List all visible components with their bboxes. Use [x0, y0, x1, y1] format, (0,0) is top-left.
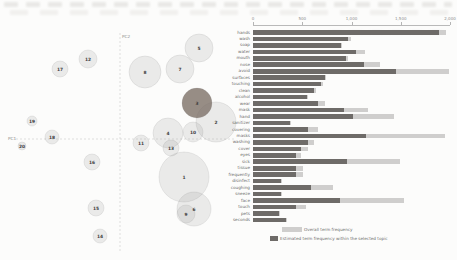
selected-frequency-bar[interactable] — [253, 75, 325, 80]
selected-frequency-bar[interactable] — [253, 159, 347, 164]
selected-frequency-bar[interactable] — [253, 140, 308, 145]
term-label: avoid — [190, 68, 250, 74]
bar-row-pets[interactable]: pets — [0, 211, 457, 217]
term-label: cover — [190, 146, 250, 152]
bar-row-sick[interactable]: sick — [0, 159, 457, 165]
overall-frequency-swatch — [282, 227, 302, 232]
selected-frequency-bar[interactable] — [253, 192, 281, 197]
term-label: eyes — [190, 152, 250, 158]
figure-canvas: PC1PC21234567891011121314151617181920 05… — [0, 0, 457, 260]
x-tick — [253, 22, 254, 25]
bar-row-hands[interactable]: hands — [0, 30, 457, 36]
overall-frequency-label: Overall term frequency — [304, 227, 353, 232]
bar-row-frequently[interactable]: frequently — [0, 172, 457, 178]
selected-frequency-bar[interactable] — [253, 95, 307, 100]
selected-frequency-bar[interactable] — [253, 198, 340, 203]
term-label: alcohol — [190, 94, 250, 100]
bar-row-avoid[interactable]: avoid — [0, 68, 457, 74]
term-label: washing — [190, 139, 250, 145]
term-label: soap — [190, 42, 250, 48]
term-label: disinfect — [190, 178, 250, 184]
legend-selected-row: Estimated term frequency within the sele… — [270, 234, 388, 243]
bar-row-sanitizer[interactable]: sanitizer — [0, 120, 457, 126]
bar-row-washing[interactable]: washing — [0, 139, 457, 145]
selected-frequency-bar[interactable] — [253, 108, 344, 113]
term-label: seconds — [190, 217, 250, 223]
selected-frequency-bar[interactable] — [253, 62, 364, 67]
selected-frequency-bar[interactable] — [253, 179, 281, 184]
term-label: coughing — [190, 185, 250, 191]
bar-row-covering[interactable]: covering — [0, 127, 457, 133]
selected-frequency-bar[interactable] — [253, 153, 296, 158]
selected-frequency-bar[interactable] — [253, 211, 279, 216]
term-label: touching — [190, 81, 250, 87]
bar-row-masks[interactable]: masks — [0, 133, 457, 139]
term-label: covering — [190, 127, 250, 133]
selected-frequency-bar[interactable] — [253, 134, 366, 139]
bar-row-touching[interactable]: touching — [0, 81, 457, 87]
bar-row-wash[interactable]: wash — [0, 36, 457, 42]
term-label: water — [190, 49, 250, 55]
term-label: nose — [190, 62, 250, 68]
x-tick-label: 1,000 — [346, 16, 357, 21]
x-tick — [352, 22, 353, 25]
term-label: masks — [190, 133, 250, 139]
bar-row-soap[interactable]: soap — [0, 42, 457, 48]
term-label: hands — [190, 30, 250, 36]
term-label: sick — [190, 159, 250, 165]
selected-frequency-bar[interactable] — [253, 30, 439, 35]
selected-frequency-bar[interactable] — [253, 43, 341, 48]
bar-row-sneeze[interactable]: sneeze — [0, 191, 457, 197]
x-tick-label: 0 — [252, 16, 255, 21]
bar-row-wear[interactable]: wear — [0, 101, 457, 107]
term-label: frequently — [190, 172, 250, 178]
bar-row-eyes[interactable]: eyes — [0, 152, 457, 158]
term-label: clean — [190, 88, 250, 94]
bar-row-face[interactable]: face — [0, 198, 457, 204]
bar-row-cover[interactable]: cover — [0, 146, 457, 152]
term-label: sneeze — [190, 191, 250, 197]
selected-frequency-bar[interactable] — [253, 205, 296, 210]
term-label: face — [190, 198, 250, 204]
term-label: hand — [190, 114, 250, 120]
term-label: sanitizer — [190, 120, 250, 126]
term-frequency-barchart: 05001,0001,5002,000 handswashsoapwatermo… — [0, 0, 457, 260]
bar-row-tissue[interactable]: tissue — [0, 165, 457, 171]
selected-frequency-bar[interactable] — [253, 166, 296, 171]
x-tick-label: 500 — [298, 16, 306, 21]
bar-row-water[interactable]: water — [0, 49, 457, 55]
selected-frequency-bar[interactable] — [253, 82, 321, 87]
selected-frequency-bar[interactable] — [253, 88, 314, 93]
selected-frequency-bar[interactable] — [253, 218, 286, 223]
bar-row-clean[interactable]: clean — [0, 88, 457, 94]
selected-frequency-bar[interactable] — [253, 127, 308, 132]
legend: Overall term frequency Estimated term fr… — [270, 225, 388, 243]
x-tick — [401, 22, 402, 25]
selected-frequency-bar[interactable] — [253, 121, 290, 126]
selected-frequency-bar[interactable] — [253, 172, 296, 177]
selected-frequency-bar[interactable] — [253, 69, 396, 74]
bar-row-nose[interactable]: nose — [0, 62, 457, 68]
selected-frequency-bar[interactable] — [253, 101, 318, 106]
selected-frequency-bar[interactable] — [253, 50, 356, 55]
bar-row-seconds[interactable]: seconds — [0, 217, 457, 223]
bar-row-disinfect[interactable]: disinfect — [0, 178, 457, 184]
bar-row-mask[interactable]: mask — [0, 107, 457, 113]
selected-frequency-bar[interactable] — [253, 114, 353, 119]
bar-row-mouth[interactable]: mouth — [0, 55, 457, 61]
selected-frequency-swatch — [270, 236, 278, 241]
term-label: mouth — [190, 55, 250, 61]
bar-row-coughing[interactable]: coughing — [0, 185, 457, 191]
bar-row-surfaces[interactable]: surfaces — [0, 75, 457, 81]
term-label: mask — [190, 107, 250, 113]
bar-row-touch[interactable]: touch — [0, 204, 457, 210]
x-tick — [302, 22, 303, 25]
bar-row-hand[interactable]: hand — [0, 114, 457, 120]
selected-frequency-bar[interactable] — [253, 37, 348, 42]
selected-frequency-bar[interactable] — [253, 147, 301, 152]
selected-frequency-label: Estimated term frequency within the sele… — [280, 236, 388, 241]
bar-row-alcohol[interactable]: alcohol — [0, 94, 457, 100]
term-label: tissue — [190, 165, 250, 171]
selected-frequency-bar[interactable] — [253, 185, 311, 190]
selected-frequency-bar[interactable] — [253, 56, 346, 61]
